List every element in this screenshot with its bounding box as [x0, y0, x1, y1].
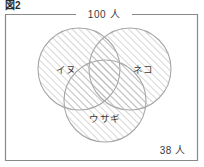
universe-count-label: 100 人: [88, 9, 120, 20]
set-label-inu: イヌ: [56, 64, 77, 75]
venn-circles: [38, 28, 171, 142]
venn-diagram-svg: 100 人 イヌ ネコ ウサギ 38 人: [0, 0, 204, 167]
set-label-neko: ネコ: [133, 64, 154, 75]
venn-figure: 図2 100 人 イヌ ネコ ウサギ 38 人: [0, 0, 204, 167]
set-label-usagi: ウサギ: [89, 113, 120, 124]
outside-count-label: 38 人: [160, 145, 186, 156]
